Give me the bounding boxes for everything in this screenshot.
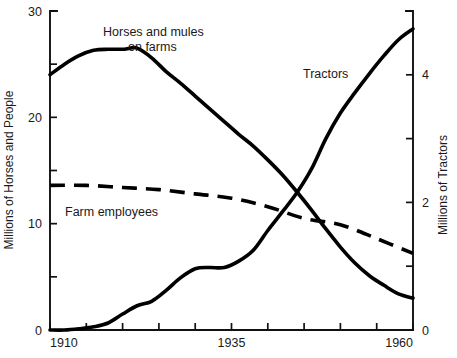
right-tick-label: 4	[422, 68, 429, 82]
left-tick-label: 10	[28, 217, 42, 231]
axes-group	[50, 11, 413, 330]
bottom-tick-label: 1910	[50, 336, 78, 350]
series-line-2	[50, 185, 413, 253]
left-axis-tick-labels: 0102030	[28, 5, 42, 338]
series-annotation-1: on farms	[128, 40, 177, 54]
right-tick-label: 2	[422, 196, 429, 210]
series-annotation-3: Farm employees	[65, 205, 158, 219]
bottom-axis-tick-labels: 191019351960	[50, 336, 413, 350]
right-axis-tick-labels: 024	[422, 68, 429, 337]
series-annotation-2: Tractors	[303, 67, 348, 81]
series-line-1	[50, 29, 413, 330]
right-tick-label: 0	[422, 324, 429, 338]
bottom-tick-label: 1960	[385, 336, 413, 350]
left-tick-label: 30	[28, 5, 42, 19]
left-axis-title: Millions of Horses and People	[2, 90, 16, 249]
bottom-tick-label: 1935	[218, 336, 246, 350]
right-axis-title: Millions of Tractors	[436, 135, 450, 235]
series-annotation-0: Horses and mules	[103, 25, 204, 39]
right-axis-line	[406, 11, 413, 330]
series-annotations: Horses and muleson farmsTractorsFarm emp…	[65, 25, 348, 219]
left-tick-label: 20	[28, 111, 42, 125]
data-series-group	[50, 29, 413, 330]
left-axis-ticks	[50, 11, 57, 330]
chart-svg: 0102030 024 191019351960 Millions of Hor…	[0, 0, 457, 358]
right-axis-ticks	[406, 11, 413, 330]
chart-container: 0102030 024 191019351960 Millions of Hor…	[0, 0, 457, 358]
left-tick-label: 0	[35, 324, 42, 338]
